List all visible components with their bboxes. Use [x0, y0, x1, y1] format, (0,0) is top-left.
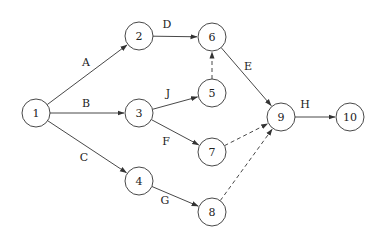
node-5: 5 [198, 79, 226, 107]
edge-label-A: A [81, 56, 91, 69]
edge-label-C: C [80, 151, 88, 164]
node-label: 10 [343, 111, 357, 124]
node-6: 6 [198, 23, 226, 51]
edge-label-H: H [300, 98, 310, 111]
edge-2-6-arrow [153, 36, 197, 37]
node-label: 9 [278, 111, 285, 124]
edge-label-D: D [163, 18, 172, 31]
edge-7-9-dummy-arrow [224, 124, 267, 146]
node-7: 7 [198, 138, 226, 166]
node-label: 1 [33, 107, 40, 120]
node-8: 8 [198, 198, 226, 226]
node-label: 7 [209, 146, 216, 159]
edge-3-5-arrow [153, 97, 198, 109]
node-label: 3 [136, 107, 143, 120]
edge-8-9-dummy-arrow [220, 129, 272, 201]
nodes-layer: 12345678910 [22, 22, 364, 226]
edge-3-7-arrow [151, 120, 198, 145]
edge-6-9-arrow [221, 48, 271, 106]
edge-label-E: E [244, 60, 252, 73]
edge-label-F: F [162, 135, 170, 148]
node-3: 3 [125, 99, 153, 127]
diagram-svg: ABCDJFGEH 12345678910 [0, 0, 381, 228]
edge-label-B: B [82, 97, 90, 110]
network-diagram: ABCDJFGEH 12345678910 [0, 0, 381, 228]
node-4: 4 [125, 167, 153, 195]
node-label: 8 [209, 206, 216, 219]
edge-label-J: J [165, 87, 170, 100]
edge-1-4-arrow [48, 121, 127, 173]
node-10: 10 [336, 103, 364, 131]
node-label: 5 [209, 87, 216, 100]
edge-label-G: G [161, 194, 170, 207]
node-1: 1 [22, 99, 50, 127]
node-9: 9 [267, 103, 295, 131]
node-label: 4 [136, 175, 143, 188]
node-2: 2 [125, 22, 153, 50]
node-label: 2 [136, 30, 143, 43]
edge-4-8-arrow [152, 186, 198, 206]
node-label: 6 [209, 31, 216, 44]
